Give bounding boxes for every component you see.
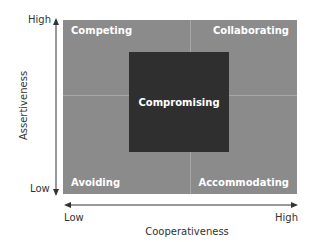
x-axis-low: Low (64, 212, 84, 224)
center-compromising-box: Compromising (129, 52, 229, 152)
quadrant-grid: Competing Collaborating Avoiding Accommo… (63, 20, 297, 194)
x-axis-high: High (275, 212, 298, 224)
quadrant-competing: Competing (71, 25, 132, 37)
y-axis-low: Low (30, 183, 50, 195)
quadrant-avoiding: Avoiding (71, 177, 120, 189)
quadrant-accommodating: Accommodating (198, 177, 289, 189)
center-compromising-label: Compromising (138, 97, 219, 108)
x-axis-title: Cooperativeness (0, 226, 334, 237)
y-axis-title: Assertiveness (18, 71, 29, 141)
quadrant-collaborating: Collaborating (213, 25, 289, 37)
y-axis-high: High (28, 14, 51, 26)
